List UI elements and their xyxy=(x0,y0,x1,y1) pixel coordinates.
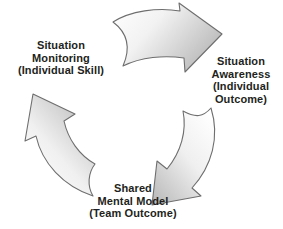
node-label-line: (Individual xyxy=(199,80,283,93)
node-label-line: Monitoring xyxy=(6,52,116,65)
node-label-line: Shared xyxy=(69,182,197,195)
node-label-line: Situation xyxy=(6,39,116,52)
node-label-line: Outcome) xyxy=(199,93,283,106)
node-label-line: Situation xyxy=(199,55,283,68)
node-label-shared-mental-model: Shared Mental Model (Team Outcome) xyxy=(69,182,197,220)
node-label-line: Awareness xyxy=(199,68,283,81)
cycle-diagram: Situation Monitoring (Individual Skill) … xyxy=(0,0,283,229)
node-label-line: (Team Outcome) xyxy=(69,207,197,220)
arrow-left-shape xyxy=(25,94,95,196)
node-label-situation-monitoring: Situation Monitoring (Individual Skill) xyxy=(6,39,116,77)
node-label-situation-awareness: Situation Awareness (Individual Outcome) xyxy=(199,55,283,105)
node-label-line: (Individual Skill) xyxy=(6,64,116,77)
node-label-line: Mental Model xyxy=(69,195,197,208)
